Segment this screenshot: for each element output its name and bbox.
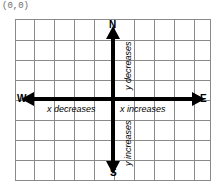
compass-label-west: W [17,94,26,104]
caption-x-increases: x increases [120,105,166,114]
y-axis-line [111,33,115,168]
caption-x-decreases: x decreases [47,105,96,114]
compass-label-south: S [110,168,117,178]
compass-label-north: N [109,20,116,30]
origin-label: (0,0) [2,1,29,11]
caption-y-decreases: y decreases [124,41,133,90]
compass-label-east: E [200,94,207,104]
coordinate-compass-diagram: (0,0) N S W E x decreases x increases y … [0,0,219,190]
caption-y-increases: y increases [124,120,133,166]
